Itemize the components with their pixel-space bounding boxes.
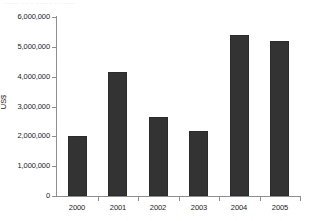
x-axis-tick-label: 2001 bbox=[98, 203, 138, 212]
y-axis-tick bbox=[52, 166, 57, 167]
x-axis-tick-label: 2000 bbox=[57, 203, 97, 212]
y-axis-title: US$ bbox=[0, 85, 8, 119]
y-axis-tick bbox=[52, 196, 57, 197]
plot-area bbox=[57, 17, 300, 196]
x-axis-tick bbox=[98, 197, 99, 201]
x-axis-tick bbox=[260, 197, 261, 201]
y-axis-tick bbox=[52, 47, 57, 48]
bar-2000 bbox=[68, 136, 87, 196]
x-axis-tick-label: 2005 bbox=[260, 203, 300, 212]
bar-2003 bbox=[189, 131, 208, 196]
y-axis-tick-label: 1,000,000 bbox=[2, 162, 50, 170]
y-axis-tick bbox=[52, 136, 57, 137]
x-axis-tick bbox=[179, 197, 180, 201]
bar-2005 bbox=[270, 41, 289, 196]
x-axis-tick bbox=[300, 197, 301, 201]
x-axis-tick bbox=[138, 197, 139, 201]
y-axis-tick-label: 5,000,000 bbox=[2, 43, 50, 51]
bar-chart-figure: ........ .... .. ......... ... ....... 0… bbox=[0, 0, 309, 221]
y-axis-tick-label: 0 bbox=[2, 192, 50, 200]
y-axis-tick-label: 4,000,000 bbox=[2, 73, 50, 81]
x-axis-tick bbox=[219, 197, 220, 201]
x-axis-tick-label: 2004 bbox=[219, 203, 259, 212]
y-axis-tick-label: 2,000,000 bbox=[2, 132, 50, 140]
bar-2001 bbox=[108, 72, 127, 196]
y-axis-tick-label: 6,000,000 bbox=[2, 13, 50, 21]
x-axis-tick-label: 2002 bbox=[138, 203, 178, 212]
bar-2002 bbox=[149, 117, 168, 196]
y-axis-tick bbox=[52, 17, 57, 18]
y-axis-tick-label: 3,000,000 bbox=[2, 103, 50, 111]
y-axis-tick bbox=[52, 77, 57, 78]
bar-2004 bbox=[230, 35, 249, 196]
x-axis-tick-label: 2003 bbox=[179, 203, 219, 212]
y-axis-tick bbox=[52, 107, 57, 108]
